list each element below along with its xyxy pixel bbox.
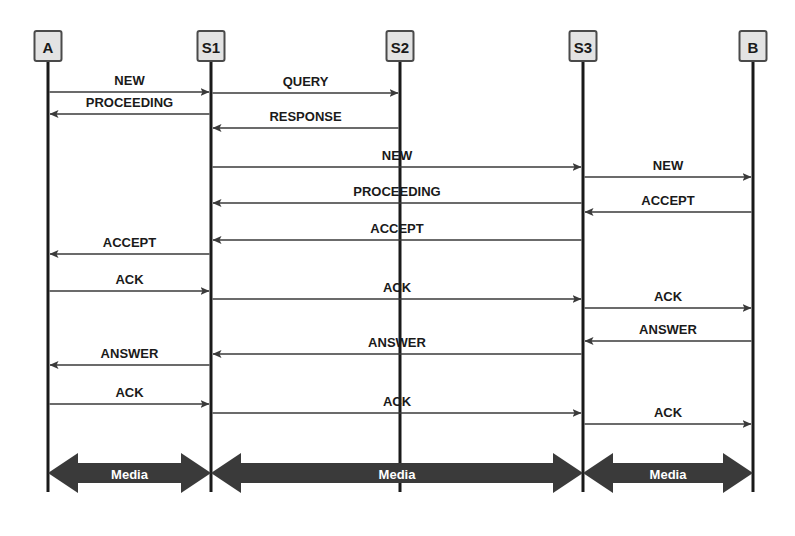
message-ack-10: ACK — [50, 272, 210, 291]
message-accept-7: ACCEPT — [585, 193, 752, 212]
message-new-5: NEW — [585, 158, 752, 177]
message-response-3: RESPONSE — [213, 109, 399, 128]
media-flow-s1-s3: Media — [211, 453, 583, 493]
message-ack-12: ACK — [585, 289, 752, 308]
lifelines-layer — [48, 62, 753, 492]
message-label: ACK — [383, 394, 412, 409]
message-label: ACK — [654, 289, 683, 304]
media-label: Media — [111, 467, 149, 482]
message-proceeding-6: PROCEEDING — [213, 184, 582, 203]
message-label: ACK — [115, 385, 144, 400]
message-label: ACCEPT — [103, 235, 157, 250]
message-label: NEW — [653, 158, 684, 173]
message-label: NEW — [382, 148, 413, 163]
message-proceeding-2: PROCEEDING — [50, 95, 210, 114]
message-label: PROCEEDING — [353, 184, 440, 199]
actor-a[interactable]: A — [35, 31, 62, 61]
message-label: PROCEEDING — [86, 95, 173, 110]
message-label: ACK — [654, 405, 683, 420]
message-new-4: NEW — [213, 148, 582, 167]
sequence-diagram-svg: NEWQUERYPROCEEDINGRESPONSENEWNEWPROCEEDI… — [0, 0, 795, 536]
message-label: NEW — [114, 73, 145, 88]
message-new-0: NEW — [50, 73, 210, 92]
actor-label: A — [43, 39, 54, 56]
media-flow-a-s1: Media — [48, 453, 211, 493]
message-label: ANSWER — [639, 322, 697, 337]
message-answer-15: ANSWER — [50, 346, 210, 365]
message-label: RESPONSE — [269, 109, 342, 124]
sequence-diagram-canvas: NEWQUERYPROCEEDINGRESPONSENEWNEWPROCEEDI… — [0, 0, 795, 536]
message-label: ANSWER — [101, 346, 159, 361]
actor-label: S3 — [574, 39, 592, 56]
message-label: QUERY — [283, 74, 329, 89]
message-ack-11: ACK — [213, 280, 582, 299]
message-ack-16: ACK — [50, 385, 210, 404]
actor-label: S1 — [202, 39, 220, 56]
message-accept-8: ACCEPT — [213, 221, 582, 240]
message-label: ACCEPT — [641, 193, 695, 208]
media-label: Media — [650, 467, 688, 482]
message-query-1: QUERY — [213, 74, 399, 93]
actor-label: S2 — [391, 39, 409, 56]
message-label: ACCEPT — [370, 221, 424, 236]
message-label: ACK — [115, 272, 144, 287]
actor-s3[interactable]: S3 — [570, 31, 597, 61]
media-label: Media — [379, 467, 417, 482]
media-flow-s3-b: Media — [583, 453, 753, 493]
message-accept-9: ACCEPT — [50, 235, 210, 254]
actors-layer: AS1S2S3B — [35, 31, 767, 61]
message-answer-13: ANSWER — [585, 322, 752, 341]
actor-b[interactable]: B — [740, 31, 767, 61]
actor-label: B — [748, 39, 759, 56]
actor-s1[interactable]: S1 — [198, 31, 225, 61]
message-label: ANSWER — [368, 335, 426, 350]
actor-s2[interactable]: S2 — [387, 31, 414, 61]
message-ack-18: ACK — [585, 405, 752, 424]
message-answer-14: ANSWER — [213, 335, 582, 354]
message-label: ACK — [383, 280, 412, 295]
message-ack-17: ACK — [213, 394, 582, 413]
